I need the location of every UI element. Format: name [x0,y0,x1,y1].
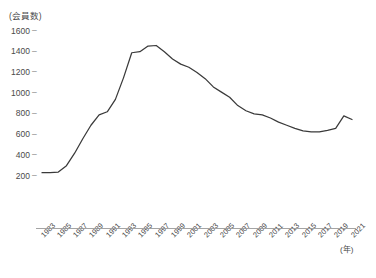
chart-figure: (会員数) (年) 200–400–600–800–1000–1200–1400… [0,0,376,278]
member-count-line [42,46,352,173]
plot-area [0,0,376,278]
